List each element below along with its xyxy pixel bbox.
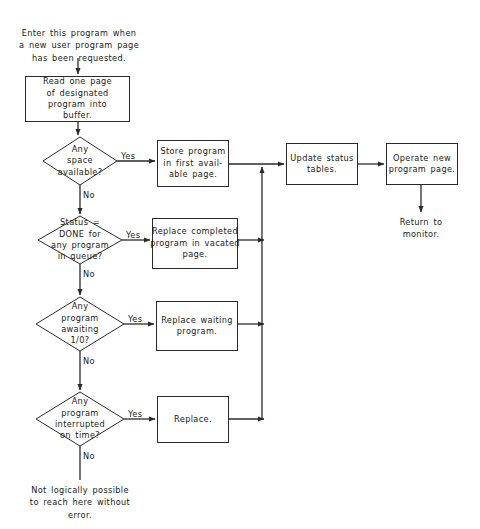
entry-note: Enter this program when a new user progr…: [16, 27, 142, 64]
edge-label-anyspace-no: No: [83, 190, 95, 200]
process-label-replace-waiting: Replace waiting program.: [155, 302, 239, 350]
process-label-update-status: Update status tables.: [285, 144, 359, 184]
decision-label-status-done: Status = DONE for any program in queue?: [42, 217, 118, 263]
terminal-note: Not logically possible to reach here wit…: [17, 484, 143, 521]
edge-label-anyspace-yes: Yes: [121, 151, 135, 161]
process-label-read-page: Read one page of designated program into…: [25, 77, 130, 121]
edge-label-awaitingio-yes: Yes: [128, 314, 142, 324]
process-label-replace: Replace.: [157, 397, 229, 442]
decision-label-interrupted-time: Any program interrupted on time?: [40, 394, 120, 444]
edge-label-statusdone-yes: Yes: [126, 230, 140, 240]
edge-label-statusdone-no: No: [83, 269, 95, 279]
flowchart-page: Enter this program when a new user progr…: [0, 0, 480, 529]
process-label-store-program: Store program in first avail- able page.: [156, 141, 230, 186]
edge-label-interrupted-no: No: [83, 451, 95, 461]
decision-label-any-space: Any space available?: [46, 139, 114, 183]
process-label-operate-new: Operate new program page.: [385, 144, 459, 184]
exit-note-return-to-monitor: Return to monitor.: [381, 216, 461, 241]
process-label-replace-completed: Replace completed program in vacated pag…: [150, 219, 240, 268]
edge-label-interrupted-yes: Yes: [128, 409, 142, 419]
decision-label-awaiting-io: Any program awaiting 1/0?: [42, 299, 118, 349]
edge-label-awaitingio-no: No: [83, 356, 95, 366]
